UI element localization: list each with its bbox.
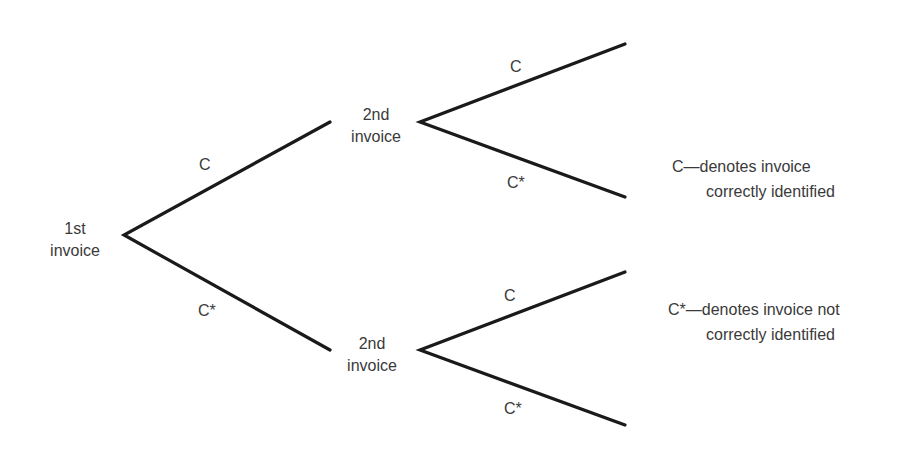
legend-text-c-star-line2: correctly identified bbox=[668, 322, 840, 347]
legend-symbol-c: C bbox=[672, 158, 684, 175]
legend-entry-c: C—denotes invoice correctly identified bbox=[672, 154, 835, 204]
bottom-node-branches bbox=[420, 272, 625, 425]
root-node-label: 1st invoice bbox=[40, 218, 110, 262]
tree-diagram: 1st invoice 2nd invoice 2nd invoice C C*… bbox=[0, 0, 915, 453]
bottom-node-line2: invoice bbox=[332, 355, 412, 377]
branch-label-root-upper: C bbox=[199, 154, 211, 176]
bottom-node-label: 2nd invoice bbox=[332, 333, 412, 377]
root-node-line1: 1st bbox=[40, 218, 110, 240]
legend-text-c-line1: denotes invoice bbox=[700, 158, 811, 175]
legend-text-c-star-line1: denotes invoice not bbox=[702, 301, 840, 318]
top-node-label: 2nd invoice bbox=[336, 104, 416, 148]
legend-entry-c-star: C*—denotes invoice not correctly identif… bbox=[668, 297, 840, 347]
tree-branches bbox=[0, 0, 915, 453]
legend-dash: — bbox=[686, 301, 702, 318]
legend-symbol-c-star: C* bbox=[668, 301, 686, 318]
branch-label-top-lower: C* bbox=[507, 172, 525, 194]
legend-text-c-line2: correctly identified bbox=[672, 179, 835, 204]
branch-label-bottom-lower: C* bbox=[504, 398, 522, 420]
branch-label-root-lower: C* bbox=[198, 300, 216, 322]
root-node-line2: invoice bbox=[40, 240, 110, 262]
branch-label-top-upper: C bbox=[510, 56, 522, 78]
bottom-node-line1: 2nd bbox=[332, 333, 412, 355]
branch-label-bottom-upper: C bbox=[504, 285, 516, 307]
top-node-line1: 2nd bbox=[336, 104, 416, 126]
legend-dash: — bbox=[684, 158, 700, 175]
top-node-line2: invoice bbox=[336, 126, 416, 148]
root-branches bbox=[124, 122, 330, 350]
